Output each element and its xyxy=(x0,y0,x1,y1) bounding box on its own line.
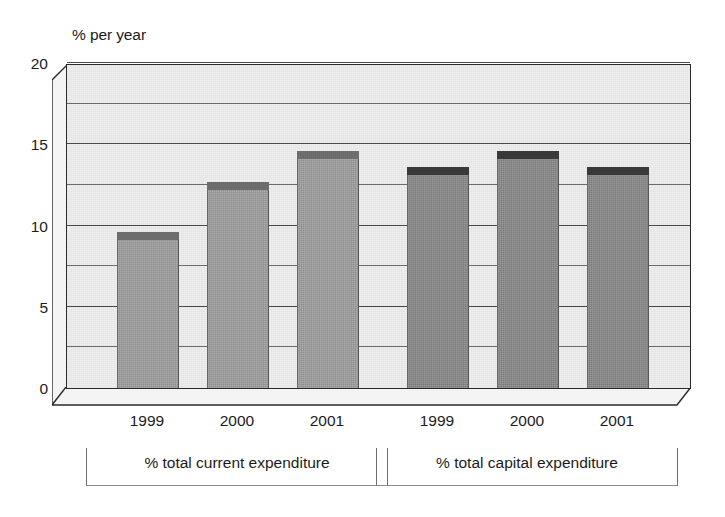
bar xyxy=(497,159,559,388)
y-tick-label: 0 xyxy=(4,380,48,398)
x-tick-label: 1999 xyxy=(110,412,184,430)
y-tick-label: 15 xyxy=(4,136,48,154)
bar-face xyxy=(207,190,269,388)
group-label: % total current expenditure xyxy=(87,454,387,472)
bar xyxy=(587,175,649,388)
x-tick-label: 2001 xyxy=(580,412,654,430)
bar-face xyxy=(297,159,359,388)
bar-top-cap xyxy=(117,232,179,240)
bar-chart: % per year 05101520 19992000200119992000… xyxy=(0,0,725,517)
bar xyxy=(407,175,469,388)
group-bracket: % total current expenditure xyxy=(86,448,388,486)
bar xyxy=(297,159,359,388)
bar-face xyxy=(497,159,559,388)
bar-top-cap xyxy=(207,182,269,190)
plot-area xyxy=(66,64,691,389)
bar-top-cap xyxy=(407,167,469,175)
x-tick-label: 2000 xyxy=(490,412,564,430)
bar-top-cap xyxy=(297,151,359,159)
y-axis-tick-labels: 05101520 xyxy=(0,0,48,517)
gridline xyxy=(67,62,690,63)
x-tick-label: 2000 xyxy=(200,412,274,430)
y-axis-caption: % per year xyxy=(72,26,146,44)
bar xyxy=(207,190,269,388)
bar-face xyxy=(407,175,469,388)
bar-face xyxy=(117,240,179,388)
y-tick-label: 20 xyxy=(4,55,48,73)
group-bracket: % total capital expenditure xyxy=(376,448,678,486)
y-tick-label: 5 xyxy=(4,299,48,317)
bar-face xyxy=(587,175,649,388)
bar-top-cap xyxy=(497,151,559,159)
bar xyxy=(117,240,179,388)
bar-top-cap xyxy=(587,167,649,175)
group-label: % total capital expenditure xyxy=(377,454,677,472)
x-tick-label: 2001 xyxy=(290,412,364,430)
x-tick-label: 1999 xyxy=(400,412,474,430)
plot-floor xyxy=(52,387,691,407)
gridline xyxy=(67,103,690,104)
gridline xyxy=(67,143,690,144)
y-tick-label: 10 xyxy=(4,218,48,236)
